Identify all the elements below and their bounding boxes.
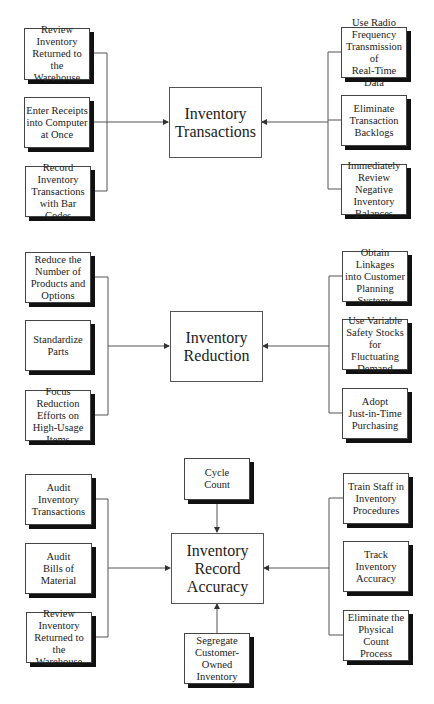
box-label: Review Inventory Returned to the Warehou…	[26, 24, 88, 84]
box-review-inventory-returned-2: Review Inventory Returned to the Warehou…	[26, 612, 92, 663]
center-box-inventory-record-accuracy: Inventory Record Accuracy	[171, 533, 264, 604]
box-eliminate-backlogs: Eliminate Transaction Backlogs	[341, 95, 407, 146]
box-audit-inventory-transactions: Audit Inventory Transactions	[25, 474, 92, 525]
box-just-in-time: Adopt Just-in-Time Purchasing	[342, 388, 408, 439]
box-radio-frequency: Use Radio Frequency Transmission of Real…	[341, 27, 407, 78]
box-label: Use Radio Frequency Transmission of Real…	[343, 17, 405, 89]
box-label: Record Inventory Transactions with Bar C…	[27, 162, 89, 222]
box-label: Reduce the Number of Products and Option…	[31, 254, 86, 302]
box-label: Train Staff in Inventory Procedures	[348, 481, 404, 517]
box-label: Obtain Linkages into Customer Planning S…	[344, 247, 406, 307]
box-review-inventory-returned: Review Inventory Returned to the Warehou…	[24, 28, 90, 80]
center-label: Inventory Reduction	[184, 329, 250, 365]
box-label: Audit Bills of Material	[41, 551, 77, 587]
box-label: Focus Reduction Efforts on High-Usage It…	[27, 386, 89, 446]
box-label: Standardize Parts	[33, 334, 83, 358]
center-box-inventory-transactions: Inventory Transactions	[169, 87, 262, 158]
box-label: Segregate Customer- Owned Inventory	[195, 635, 239, 683]
box-label: Review Inventory Returned to the Warehou…	[28, 608, 90, 668]
box-standardize-parts: Standardize Parts	[25, 320, 91, 371]
box-obtain-linkages: Obtain Linkages into Customer Planning S…	[342, 251, 408, 302]
box-segregate-customer-owned: Segregate Customer- Owned Inventory	[184, 633, 250, 684]
box-label: Track Inventory Accuracy	[356, 549, 397, 585]
box-enter-receipts: Enter Receipts into Computer at Once	[24, 97, 90, 148]
box-variable-safety-stocks: Use Variable Safety Stocks for Fluctuati…	[342, 319, 408, 370]
center-label: Inventory Transactions	[175, 105, 256, 141]
box-label: Eliminate Transaction Backlogs	[349, 103, 398, 139]
box-track-inventory-accuracy: Track Inventory Accuracy	[343, 541, 409, 592]
box-label: Adopt Just-in-Time Purchasing	[348, 396, 401, 432]
box-label: Immediately Review Negative Inventory Ba…	[343, 160, 405, 220]
box-label: Eliminate the Physical Count Process	[345, 612, 407, 660]
box-label: Enter Receipts into Computer at Once	[26, 105, 88, 141]
box-review-negative-balances: Immediately Review Negative Inventory Ba…	[341, 164, 407, 215]
box-reduce-products: Reduce the Number of Products and Option…	[25, 252, 91, 303]
box-train-staff: Train Staff in Inventory Procedures	[343, 473, 409, 524]
center-label: Inventory Record Accuracy	[186, 542, 248, 596]
box-eliminate-physical-count: Eliminate the Physical Count Process	[343, 610, 409, 661]
box-label: Audit Inventory Transactions	[32, 482, 85, 518]
box-audit-bills-of-material: Audit Bills of Material	[25, 543, 92, 594]
box-record-inventory-transactions: Record Inventory Transactions with Bar C…	[25, 166, 91, 217]
center-box-inventory-reduction: Inventory Reduction	[170, 311, 263, 382]
box-cycle-count: Cycle Count	[184, 458, 250, 500]
box-label: Use Variable Safety Stocks for Fluctuati…	[344, 315, 406, 375]
box-label: Cycle Count	[204, 467, 230, 491]
box-focus-reduction: Focus Reduction Efforts on High-Usage It…	[25, 390, 91, 441]
